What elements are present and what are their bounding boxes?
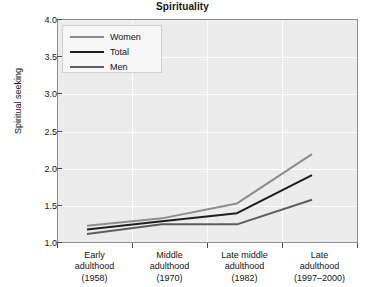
x-category-line-3: (1958) xyxy=(57,273,132,284)
legend-swatch-men xyxy=(70,66,104,68)
x-category-line-2: adulthood xyxy=(282,261,357,272)
legend-swatch-women xyxy=(70,36,104,38)
y-tick-label-2-0: 2.0 xyxy=(27,164,57,174)
x-category-line-3: (1997–2000) xyxy=(282,273,357,284)
y-tick-label-2-5: 2.5 xyxy=(27,127,57,137)
legend-swatch-total xyxy=(70,51,104,53)
y-tick-mark-1-5 xyxy=(57,205,62,206)
y-tick-mark-2-5 xyxy=(57,131,62,132)
legend-label-women: Women xyxy=(110,31,141,43)
x-category-line-3: (1970) xyxy=(132,273,207,284)
x-category-line-1: Early xyxy=(57,250,132,261)
y-tick-label-1-0: 1.0 xyxy=(27,238,57,248)
x-category-line-2: adulthood xyxy=(57,261,132,272)
x-tick-sep-3 xyxy=(282,243,283,248)
x-category-late-middle-adulthood: Late middle adulthood (1982) xyxy=(207,250,282,284)
spirituality-line-chart: Spirituality Spiritual seeking 4.0 3.5 3… xyxy=(0,0,365,287)
y-axis-tick-labels: 4.0 3.5 3.0 2.5 2.0 1.5 1.0 xyxy=(22,0,57,287)
gridline-cat-3 xyxy=(282,20,283,242)
y-tick-label-3-5: 3.5 xyxy=(27,52,57,62)
chart-legend: Women Total Men xyxy=(62,25,162,73)
legend-label-men: Men xyxy=(110,61,128,73)
x-category-line-3: (1982) xyxy=(207,273,282,284)
y-tick-label-3-0: 3.0 xyxy=(27,89,57,99)
x-category-middle-adulthood: Middle adulthood (1970) xyxy=(132,250,207,284)
x-tick-sep-4 xyxy=(357,243,358,248)
y-tick-mark-4-0 xyxy=(57,19,62,20)
x-tick-sep-0 xyxy=(57,243,58,248)
y-tick-mark-2-0 xyxy=(57,168,62,169)
y-tick-label-1-5: 1.5 xyxy=(27,201,57,211)
legend-label-total: Total xyxy=(110,46,129,58)
x-category-early-adulthood: Early adulthood (1958) xyxy=(57,250,132,284)
x-category-line-2: adulthood xyxy=(207,261,282,272)
y-tick-mark-3-0 xyxy=(57,93,62,94)
x-category-line-1: Late xyxy=(282,250,357,261)
x-category-line-1: Middle xyxy=(132,250,207,261)
y-tick-label-4-0: 4.0 xyxy=(27,15,57,25)
x-category-line-2: adulthood xyxy=(132,261,207,272)
x-tick-sep-2 xyxy=(207,243,208,248)
x-tick-sep-1 xyxy=(132,243,133,248)
x-category-line-1: Late middle xyxy=(207,250,282,261)
x-category-late-adulthood: Late adulthood (1997–2000) xyxy=(282,250,357,284)
gridline-cat-2 xyxy=(207,20,208,242)
